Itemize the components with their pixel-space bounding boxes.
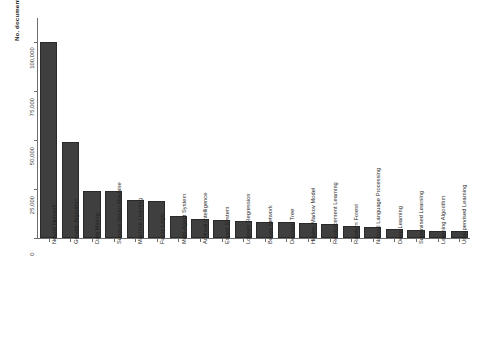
x-tick-label: Hidden Markov Model: [310, 188, 316, 244]
plot-area: [38, 18, 470, 238]
x-tick-label: Reinforcement Learning: [332, 182, 338, 244]
x-tick-label: Multi-Agent System: [181, 194, 187, 244]
x-tick-mark: [438, 239, 439, 242]
y-tick-label: 50,000: [29, 140, 35, 172]
x-tick-mark: [70, 239, 71, 242]
y-axis-title: No. documents: [13, 0, 20, 78]
x-tick-mark: [114, 239, 115, 242]
x-tick-label: Unsupervised Learning: [461, 184, 467, 244]
x-tick-mark: [222, 239, 223, 242]
x-axis-line: [37, 238, 470, 239]
x-tick-label: Decision Tree: [289, 209, 295, 244]
x-tick-mark: [330, 239, 331, 242]
x-tick-mark: [394, 239, 395, 242]
x-tick-label: Learning Algorithm: [440, 196, 446, 244]
x-tick-label: Genetic Algorithm: [73, 198, 79, 244]
x-tick-label: Deep Learning: [397, 206, 403, 244]
x-tick-label: Logistic Regression: [245, 193, 251, 244]
x-tick-label: Fuzzy Logic: [159, 213, 165, 244]
x-tick-label: Bayes Network: [267, 205, 273, 244]
x-tick-label: Artificial Intelligence: [202, 193, 208, 244]
y-tick-label: 75,000: [29, 91, 35, 123]
y-tick-label: 100,000: [29, 42, 35, 74]
x-tick-mark: [373, 239, 374, 242]
x-tick-label: Machine Learning: [137, 198, 143, 244]
x-tick-label: Supervised Learning: [418, 191, 424, 244]
x-tick-mark: [200, 239, 201, 242]
x-tick-mark: [308, 239, 309, 242]
x-tick-label: Neural Network: [51, 204, 57, 244]
x-tick-mark: [286, 239, 287, 242]
bar-chart: No. documents 025,00050,00075,000100,000…: [0, 0, 502, 350]
x-tick-mark: [265, 239, 266, 242]
y-tick-label: 25,000: [29, 189, 35, 221]
x-tick-label: Data Mining: [94, 213, 100, 244]
x-tick-mark: [49, 239, 50, 242]
x-tick-mark: [157, 239, 158, 242]
x-tick-mark: [92, 239, 93, 242]
x-tick-mark: [178, 239, 179, 242]
x-tick-label: Expert System: [224, 206, 230, 244]
x-tick-label: Natural Language Processing: [375, 168, 381, 244]
x-tick-mark: [416, 239, 417, 242]
x-tick-label: Random Forest: [353, 204, 359, 244]
x-tick-label: Support Vector Machine: [116, 182, 122, 244]
y-tick-label: 0: [29, 238, 35, 270]
